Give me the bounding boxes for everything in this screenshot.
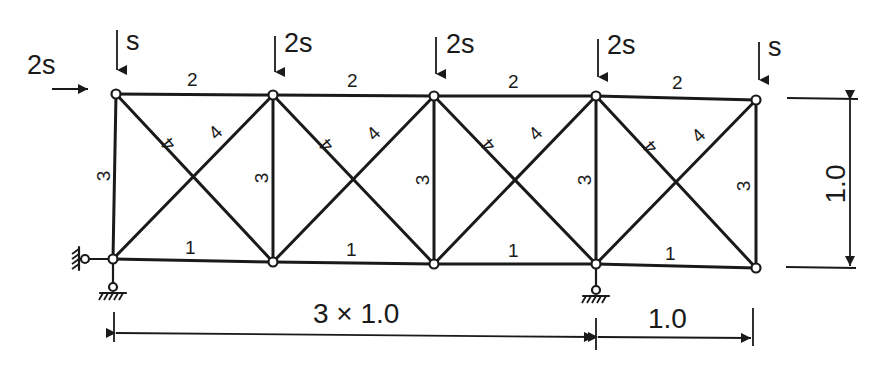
load-arrow-T5: s <box>759 32 782 80</box>
node-B5 <box>752 264 761 273</box>
load-label-T3: 2s <box>446 29 475 59</box>
node-B3 <box>430 260 439 269</box>
horizontal-load-arrow: 2s <box>27 50 88 89</box>
label-vert-4: 3 <box>574 175 595 186</box>
horizontal-load-label: 2s <box>27 50 56 80</box>
load-arrow-T4: 2s <box>598 30 636 77</box>
label-diag-asc-1: 4 <box>204 121 227 144</box>
label-bottom-3: 1 <box>508 240 519 261</box>
label-bottom-2: 1 <box>346 239 357 260</box>
load-label-T4: 2s <box>607 30 636 60</box>
label-top-1: 2 <box>187 69 198 90</box>
load-arrow-T2: 2s <box>275 28 313 72</box>
node-B4 <box>592 260 601 269</box>
dimension-label-span-left: 3 × 1.0 <box>313 298 399 329</box>
support-right <box>582 264 609 303</box>
node-T5 <box>752 96 761 105</box>
load-label-T2: 2s <box>284 28 313 58</box>
label-vert-3: 3 <box>412 175 433 186</box>
label-top-4: 2 <box>672 72 683 93</box>
label-diag-asc-2: 4 <box>362 122 385 145</box>
label-diag-asc-3: 4 <box>524 122 547 145</box>
label-vert-5: 3 <box>733 181 754 192</box>
node-T2 <box>269 91 278 100</box>
top-chord-labels: 2 2 2 2 <box>187 69 683 93</box>
label-diag-desc-2: 4 <box>314 134 337 156</box>
loads: s 2s 2s 2s s 2s <box>27 26 782 89</box>
label-bottom-4: 1 <box>665 243 676 264</box>
node-B2 <box>269 258 278 267</box>
dimension-height: 1.0 <box>786 98 858 268</box>
label-top-2: 2 <box>347 70 358 91</box>
label-vert-1: 3 <box>93 171 114 182</box>
verticals <box>113 94 756 268</box>
label-bottom-1: 1 <box>185 237 196 258</box>
load-arrow-T1: s <box>117 26 140 70</box>
dimension-label-span-right: 1.0 <box>648 303 687 334</box>
load-label-T5: s <box>768 32 782 62</box>
label-diag-asc-4: 4 <box>687 124 710 147</box>
load-arrow-T3: 2s <box>436 29 475 74</box>
label-vert-2: 3 <box>251 173 272 184</box>
node-T4 <box>592 92 601 101</box>
load-label-T1: s <box>126 26 140 56</box>
dimension-label-height: 1.0 <box>820 165 851 204</box>
dimension-bottom: 3 × 1.0 1.0 <box>114 298 753 350</box>
label-diag-desc-1: 4 <box>156 133 179 155</box>
truss-diagram: 2 2 2 2 1 1 1 1 3 3 3 3 3 4 4 4 4 4 4 4 … <box>0 0 894 371</box>
label-top-3: 2 <box>508 71 519 92</box>
node-B1 <box>109 255 118 264</box>
node-T3 <box>430 92 439 101</box>
node-T1 <box>112 90 121 99</box>
